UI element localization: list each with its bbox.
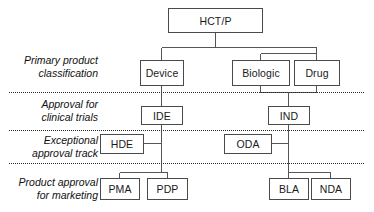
divider-exceptional-marketing bbox=[9, 163, 364, 164]
node-pma-label: PMA bbox=[108, 183, 131, 195]
row-label-product-approval-for-marketing: Product approval for marketing bbox=[0, 176, 98, 201]
node-biologic[interactable]: Biologic bbox=[232, 60, 290, 86]
node-pma[interactable]: PMA bbox=[100, 178, 140, 200]
node-drug[interactable]: Drug bbox=[294, 60, 340, 86]
node-device-label: Device bbox=[146, 67, 179, 79]
node-hctp-label: HCT/P bbox=[200, 15, 232, 27]
divider-classification-trials bbox=[9, 92, 364, 93]
row-label-approval-for-clinical-trials: Approval for clinical trials bbox=[8, 98, 98, 123]
node-ind[interactable]: IND bbox=[268, 106, 310, 125]
node-drug-label: Drug bbox=[305, 67, 328, 79]
node-pdp[interactable]: PDP bbox=[147, 178, 188, 200]
node-biologic-label: Biologic bbox=[242, 67, 280, 79]
node-device[interactable]: Device bbox=[140, 60, 184, 86]
node-oda[interactable]: ODA bbox=[224, 134, 272, 154]
node-oda-label: ODA bbox=[236, 138, 259, 150]
node-bla[interactable]: BLA bbox=[269, 178, 309, 200]
diagram-canvas: Primary product classification Approval … bbox=[0, 0, 374, 212]
node-ind-label: IND bbox=[280, 110, 298, 122]
node-nda[interactable]: NDA bbox=[311, 178, 351, 200]
node-hde[interactable]: HDE bbox=[100, 134, 144, 154]
node-hde-label: HDE bbox=[111, 138, 133, 150]
node-hctp[interactable]: HCT/P bbox=[168, 8, 263, 33]
row-label-exceptional-approval-track: Exceptional approval track bbox=[8, 134, 98, 159]
node-ide-label: IDE bbox=[153, 110, 171, 122]
row-label-primary-product-classification: Primary product classification bbox=[8, 54, 98, 79]
divider-trials-exceptional bbox=[9, 130, 364, 131]
node-pdp-label: PDP bbox=[157, 183, 179, 195]
node-nda-label: NDA bbox=[320, 183, 342, 195]
node-ide[interactable]: IDE bbox=[141, 106, 183, 125]
node-bla-label: BLA bbox=[279, 183, 299, 195]
